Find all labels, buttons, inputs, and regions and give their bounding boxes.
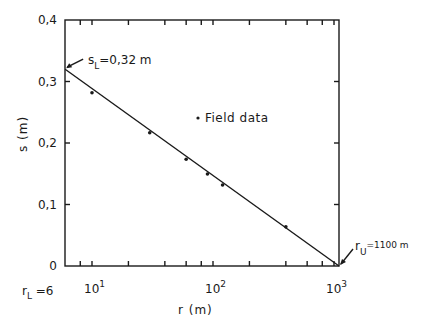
legend: Field data: [196, 111, 268, 125]
fit-line: [65, 69, 339, 266]
legend-marker: [196, 116, 199, 119]
y-axis-title: s (m): [16, 116, 30, 152]
legend-label: Field data: [205, 111, 269, 125]
drawdown-chart: 00,10,20,30,4101102103rL =6r (m)s (m) Fi…: [0, 0, 429, 329]
x-tick-label: 101: [84, 279, 105, 296]
x-extra-label: rL =6: [22, 284, 53, 301]
annotation-sL: sL=0,32 m: [88, 53, 152, 71]
annotations: sL=0,32 mrU=1100 m: [66, 53, 408, 265]
data-point: [184, 157, 188, 161]
y-tick-label: 0,4: [38, 13, 57, 27]
fitted-line: [65, 69, 339, 266]
data-point: [90, 91, 94, 95]
annotation-rU: rU=1100 m: [355, 239, 409, 257]
data-point: [284, 225, 288, 229]
x-tick-label: 103: [326, 279, 347, 296]
y-tick-label: 0: [49, 259, 57, 273]
data-point: [148, 131, 152, 135]
x-axis-title: r (m): [178, 303, 213, 317]
y-tick-label: 0,3: [38, 75, 57, 89]
y-tick-label: 0,2: [38, 136, 57, 150]
data-point: [206, 172, 210, 176]
x-tick-label: 102: [205, 279, 226, 296]
data-point: [221, 183, 225, 187]
y-tick-label: 0,1: [38, 198, 57, 212]
